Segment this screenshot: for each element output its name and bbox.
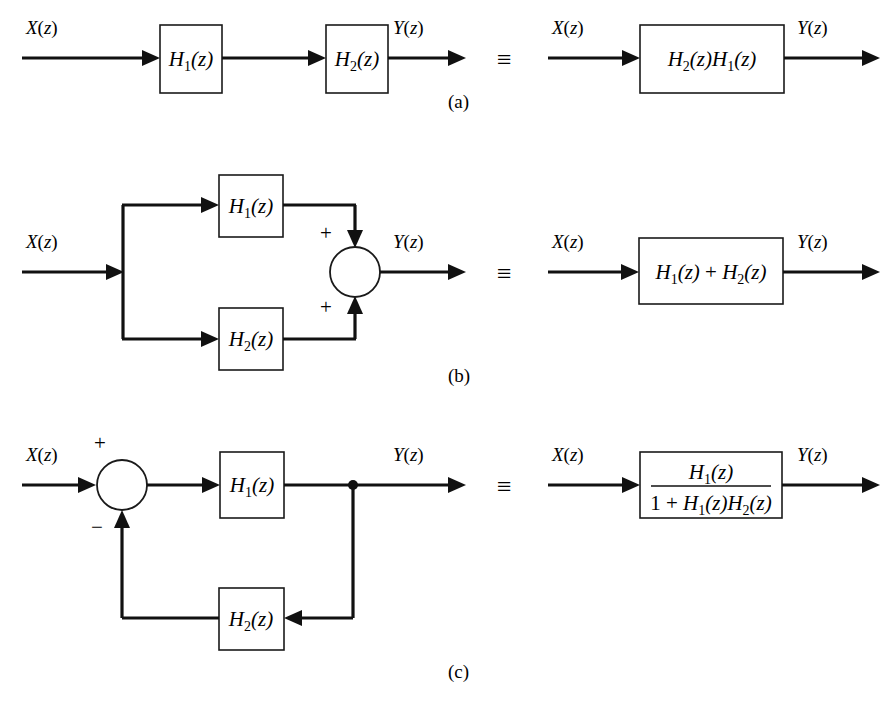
panel-b-left-input-arrow: [22, 264, 124, 280]
panel-c-feedback-up: [114, 510, 130, 618]
panel-c-block-feedback-numerator: H1(z): [688, 460, 733, 487]
panel-c-right-input-label: X(z): [551, 444, 584, 466]
panel-a-left-input-label: X(z): [25, 17, 58, 39]
panel-b-left-input-label: X(z): [25, 231, 58, 253]
panel-a-left-input-arrow: [22, 50, 160, 66]
panel-a-equivalence-symbol: ≡: [497, 45, 512, 74]
panel-a-right-output-label: Y(z): [797, 17, 828, 39]
panel-c-block-feedback-denominator: 1 + H1(z)H2(z): [650, 491, 772, 518]
panel-a-right-output-arrow: [784, 50, 880, 66]
panel-c-summer-sign-minus: −: [91, 515, 103, 539]
panel-b-right-input-label: X(z): [551, 231, 584, 253]
panel-c-left-output-arrowhead: [448, 477, 466, 493]
panel-a-wire-h1-h2: [222, 50, 326, 66]
panel-c-left-input-label: X(z): [25, 444, 58, 466]
panel-a-block-h1-label: H1(z): [168, 47, 213, 74]
panel-b: X(z) H1(z) H2(z): [22, 175, 880, 387]
panel-a-right-input-label: X(z): [551, 17, 584, 39]
panel-c: X(z) + − H1(z) Y(z): [22, 431, 880, 683]
panel-b-right-output-arrow: [783, 264, 880, 280]
panel-c-wire-to-h2: [284, 610, 353, 626]
panel-c-block-h1-label: H1(z): [229, 473, 274, 500]
panel-c-block-h2-label: H2(z): [228, 607, 273, 634]
panel-c-left-input-arrow: [22, 477, 96, 493]
panel-c-summing-junction: [97, 460, 147, 510]
panel-c-left-output-label: Y(z): [393, 444, 424, 466]
panel-b-wire-to-h2: [122, 331, 219, 347]
panel-c-equivalence-symbol: ≡: [497, 472, 512, 501]
block-diagram-figure: X(z) H1(z) H2(z) Y(z) ≡: [0, 0, 891, 707]
panel-a: X(z) H1(z) H2(z) Y(z) ≡: [22, 17, 880, 113]
panel-c-summer-sign-plus: +: [94, 431, 106, 455]
panel-b-right-input-arrow: [548, 264, 639, 280]
panel-b-label: (b): [448, 365, 470, 387]
panel-a-block-h2-label: H2(z): [334, 47, 379, 74]
panel-a-left-output-arrow: [388, 50, 466, 66]
panel-c-right-output-label: Y(z): [797, 444, 828, 466]
panel-a-label: (a): [448, 91, 469, 113]
diagram-canvas: X(z) H1(z) H2(z) Y(z) ≡: [0, 0, 891, 707]
panel-c-label: (c): [448, 661, 469, 683]
panel-b-block-h1-label: H1(z): [228, 194, 273, 221]
panel-b-right-output-label: Y(z): [797, 231, 828, 253]
panel-c-right-output-arrow: [782, 477, 880, 493]
panel-b-equivalence-symbol: ≡: [497, 259, 512, 288]
panel-b-left-output-arrow: [380, 264, 466, 280]
panel-b-block-h2-label: H2(z): [228, 327, 273, 354]
panel-c-wire-summer-h1: [147, 477, 220, 493]
panel-c-right-input-arrow: [548, 477, 640, 493]
panel-a-right-input-arrow: [548, 50, 640, 66]
panel-b-summer-sign-bottom: +: [320, 295, 332, 319]
panel-b-summing-junction: [330, 247, 380, 297]
panel-b-left-output-label: Y(z): [393, 231, 424, 253]
panel-a-block-cascade-label: H2(z)H1(z): [667, 47, 757, 74]
panel-b-summer-sign-top: +: [320, 221, 332, 245]
panel-b-wire-to-h1: [122, 197, 219, 213]
panel-a-left-output-label: Y(z): [393, 17, 424, 39]
